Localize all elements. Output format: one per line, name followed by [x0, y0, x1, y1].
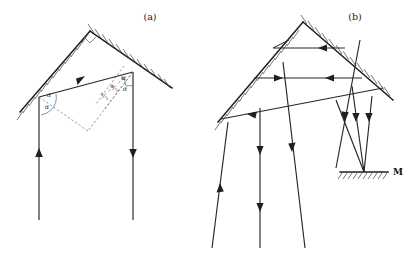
panel-b-mirror-M-label: M: [393, 167, 403, 177]
panel-a-caption: (a): [143, 11, 156, 22]
optics-figure: α α α α π 2 − α π 2 − α (a): [0, 0, 406, 254]
panel-a-alpha-lower-right: α: [123, 85, 128, 93]
figure-background: [0, 0, 406, 254]
panel-b-caption: (b): [348, 11, 362, 22]
panel-a-alpha-lower-left: α: [45, 103, 50, 111]
panel-a-alpha-upper-left: α: [47, 91, 52, 99]
